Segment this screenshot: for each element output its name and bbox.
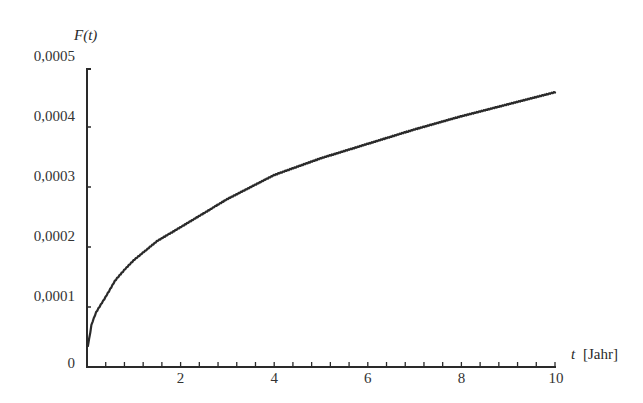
y-tick-labels: 00,00010,00020,00030,00040,0005 [34, 48, 76, 371]
x-tick-label: 6 [364, 370, 372, 386]
y-axis-title: F(t) [73, 27, 97, 44]
x-tick-label: 10 [549, 370, 564, 386]
x-tick-label: 8 [458, 370, 466, 386]
x-axis-title: t [Jahr] [571, 346, 618, 362]
y-tick-label: 0,0004 [34, 108, 76, 124]
x-tick-label: 2 [177, 370, 185, 386]
x-tick-label: 4 [270, 370, 278, 386]
x-axis-variable: t [571, 346, 576, 362]
chart: 00,00010,00020,00030,00040,0005 246810 F… [0, 0, 643, 403]
y-tick-label: 0,0002 [34, 228, 75, 244]
y-tick-label: 0 [68, 355, 76, 371]
x-axis-unit: [Jahr] [583, 346, 618, 362]
y-tick-label: 0,0003 [34, 168, 75, 184]
y-tick-label: 0,0005 [34, 48, 75, 64]
x-tick-labels: 246810 [177, 370, 564, 386]
y-tick-label: 0,0001 [34, 288, 75, 304]
data-line-F-t [88, 92, 555, 346]
